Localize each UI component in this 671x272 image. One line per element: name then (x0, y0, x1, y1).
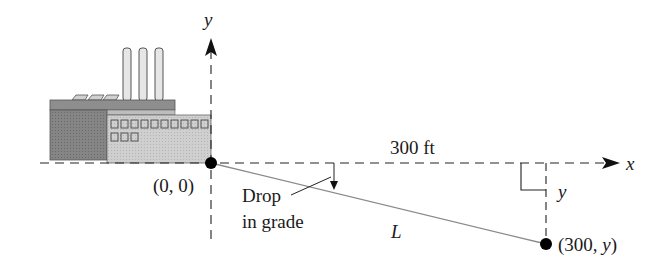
x-axis-label: x (625, 153, 635, 174)
y-axis-label: y (202, 9, 213, 30)
x-axis-arrow-icon (602, 157, 620, 169)
origin-point (205, 157, 217, 169)
end-point-label-close: ) (611, 234, 617, 256)
end-point (540, 238, 552, 250)
factory-icon (50, 48, 211, 163)
end-point-label-open: (300, (558, 234, 602, 256)
vertical-drop-label: y (556, 181, 567, 202)
drop-label-line2: in grade (242, 211, 304, 232)
end-point-label-var: y (600, 234, 611, 255)
origin-label: (0, 0) (153, 175, 194, 197)
smokestacks (123, 48, 163, 101)
drop-label-line1: Drop (242, 185, 281, 206)
end-point-label: (300, y) (558, 234, 617, 256)
right-angle-marker (521, 163, 546, 190)
pipeline-diagram: x y (0, 0) 300 ft Drop in grade L y (300… (0, 0, 671, 272)
distance-label: 300 ft (390, 137, 436, 158)
drop-leader-line (291, 177, 331, 195)
pipe-length-label: L (390, 221, 402, 242)
drop-arrow-icon (330, 181, 338, 190)
